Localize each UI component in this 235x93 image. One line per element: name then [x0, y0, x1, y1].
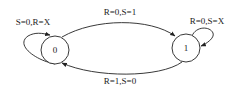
state-diagram: R=0,S=1 R=1,S=0 S=0,R=X R=0,S=X 0 1 — [0, 0, 235, 93]
transition-label-0-to-1: R=0,S=1 — [104, 7, 136, 17]
state-1-label: 1 — [184, 43, 189, 53]
transition-label-1-to-0: R=1,S=0 — [104, 76, 137, 86]
state-0-label: 0 — [53, 45, 58, 55]
transition-label-1-to-1: R=0,S=X — [190, 16, 225, 26]
transition-1-to-0 — [62, 62, 182, 74]
transition-label-0-to-0: S=0,R=X — [16, 17, 51, 27]
transition-0-to-1 — [62, 23, 175, 37]
